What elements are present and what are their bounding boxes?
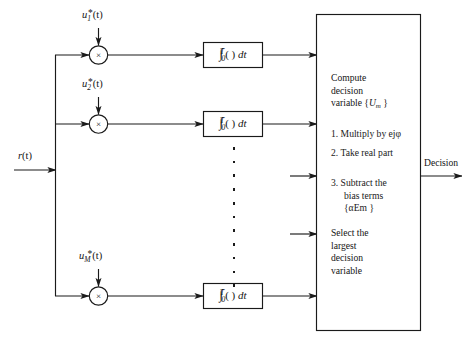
branch-signal-label-2: u2*(t) — [82, 77, 103, 92]
ellipsis-dot — [233, 216, 236, 219]
processor-panel-box — [317, 15, 421, 331]
processor-select-line2: largest — [331, 240, 369, 253]
processor-heading-line1: Compute — [331, 72, 388, 85]
decision-output-label: Decision — [424, 157, 458, 168]
processor-select-block: Select the largest decision variable — [331, 227, 369, 277]
vertical-ellipsis — [230, 147, 238, 287]
ellipsis-dot — [233, 202, 236, 205]
processor-step-3-line3: {αEm } — [331, 202, 387, 215]
processor-select-line4: variable — [331, 265, 369, 278]
multiplier-glyph-M: × — [96, 291, 101, 302]
ellipsis-dot — [233, 147, 236, 150]
processor-heading: Compute decision variable {Um } — [331, 72, 388, 113]
processor-heading-line3: variable {Um } — [331, 97, 388, 113]
ellipsis-dot — [233, 284, 236, 287]
ellipsis-dot — [233, 229, 236, 232]
processor-select-line1: Select the — [331, 227, 369, 240]
processor-step-1: 1. Multiply by ejφ — [331, 128, 401, 141]
integrator-label-M: ∫T0( ) dt — [219, 287, 246, 304]
multiplier-glyph-1: × — [96, 50, 101, 61]
integrator-label-2: ∫T0( ) dt — [219, 115, 246, 132]
processor-heading-line2: decision — [331, 85, 388, 98]
ellipsis-dot — [233, 161, 236, 164]
ellipsis-dot — [233, 257, 236, 260]
ellipsis-dot — [233, 174, 236, 177]
branch-signal-label-1: u1*(t) — [82, 8, 103, 23]
processor-select-line3: decision — [331, 252, 369, 265]
ellipsis-dot — [233, 188, 236, 191]
ellipsis-dot — [233, 271, 236, 274]
block-diagram-figure: r(t) u1*(t) u2*(t) uM*(t) × × × ∫T0( ) d… — [0, 0, 471, 354]
branch-signal-label-M: uM*(t) — [79, 249, 102, 264]
processor-step-3-line1: 3. Subtract the — [331, 177, 387, 190]
processor-step-3-line2: bias terms — [331, 190, 387, 203]
ellipsis-dot — [233, 243, 236, 246]
processor-step-2: 2. Take real part — [331, 147, 393, 160]
integrator-label-1: ∫T0( ) dt — [219, 46, 246, 63]
multiplier-glyph-2: × — [96, 119, 101, 130]
processor-step-3: 3. Subtract the bias terms {αEm } — [331, 177, 387, 215]
input-signal-label: r(t) — [18, 150, 32, 162]
